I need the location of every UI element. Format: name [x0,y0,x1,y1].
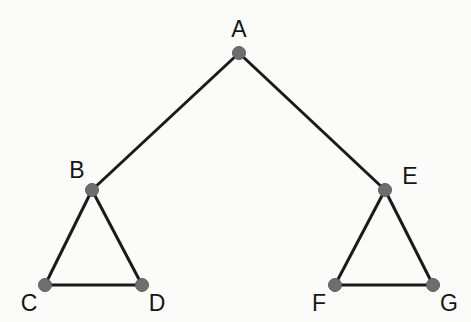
diagram-canvas: ABCDEFG [0,0,471,322]
node-label-c: C [21,292,38,315]
node-label-e: E [402,165,417,188]
graph-node-f[interactable] [329,279,342,292]
graph-edge-b-d [92,190,142,285]
node-label-b: B [69,159,84,182]
graph-edge-e-g [385,190,433,285]
graph-node-g[interactable] [427,279,440,292]
graph-node-b[interactable] [86,184,99,197]
graph-edge-a-b [92,53,239,190]
node-label-f: F [312,292,326,315]
graph-edge-e-f [335,190,385,285]
graph-node-c[interactable] [39,279,52,292]
graph-node-e[interactable] [379,184,392,197]
node-label-d: D [149,292,166,315]
nodes-layer [39,47,440,292]
graph-node-a[interactable] [233,47,246,60]
graph-edge-b-c [45,190,92,285]
graph-node-d[interactable] [136,279,149,292]
node-label-g: G [440,292,458,315]
node-label-a: A [231,18,246,41]
graph-edge-a-e [239,53,385,190]
edges-layer [45,53,433,285]
